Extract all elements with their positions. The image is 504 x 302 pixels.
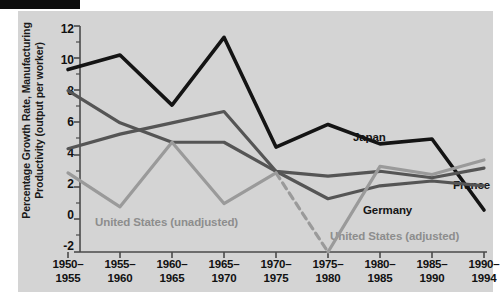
data-series-group bbox=[68, 37, 484, 252]
y-axis-ticks bbox=[74, 26, 80, 252]
chart-figure: Percentage Growth Rate, Manufacturing Pr… bbox=[0, 0, 504, 302]
chart-svg bbox=[0, 0, 504, 302]
x-axis-ticks bbox=[68, 252, 484, 258]
series-line-united-states-unadjusted bbox=[68, 142, 276, 207]
series-line-japan bbox=[68, 37, 484, 210]
